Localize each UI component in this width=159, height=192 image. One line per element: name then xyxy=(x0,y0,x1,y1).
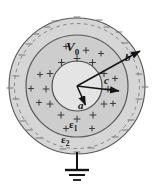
label-potential-v0: V0 xyxy=(66,40,79,56)
label-permittivity-epsilon-2: ε2 xyxy=(61,134,69,148)
label-radius-b: b xyxy=(125,52,131,63)
physics-diagram-figure: V0 a c b ε1 ε2 xyxy=(0,0,159,192)
diagram-canvas xyxy=(0,0,159,192)
label-radius-c: c xyxy=(104,75,109,86)
ground-symbol xyxy=(65,170,89,180)
label-radius-a: a xyxy=(78,100,84,111)
label-permittivity-epsilon-1: ε1 xyxy=(69,119,77,133)
